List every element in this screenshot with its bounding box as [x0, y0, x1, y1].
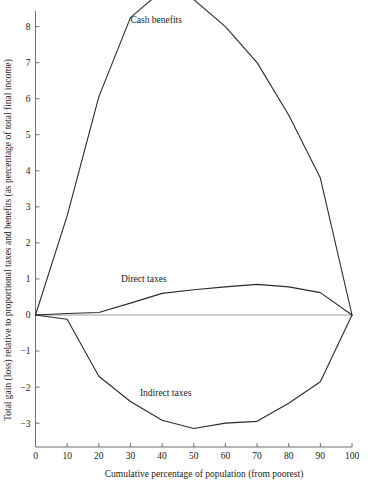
y-tick-label: 4 [26, 166, 31, 176]
y-tick-label: 7 [26, 58, 31, 68]
y-tick-label: −3 [20, 419, 30, 429]
y-tick-label: −2 [20, 383, 30, 393]
x-tick-label: 0 [33, 451, 38, 461]
y-tick-label: 3 [26, 202, 31, 212]
plot-background [0, 0, 373, 483]
x-axis-title-text: Cumulative percentage of population (fro… [105, 469, 304, 480]
chart-container: −3−2−101234567890102030405060708090100 C… [0, 0, 373, 483]
y-tick-label: −1 [20, 346, 30, 356]
x-tick-label: 30 [126, 451, 136, 461]
y-tick-label: 5 [26, 130, 31, 140]
x-tick-label: 70 [252, 451, 262, 461]
series-label-direct-taxes: Direct taxes [121, 274, 167, 284]
x-tick-label: 10 [62, 451, 72, 461]
series-label-cash-benefits: Cash benefits [130, 15, 182, 25]
y-axis-title-text: Total gain (loss) relative to proportion… [3, 59, 14, 421]
line-chart: −3−2−101234567890102030405060708090100 C… [0, 0, 373, 483]
y-tick-label: 2 [26, 238, 31, 248]
x-tick-label: 100 [345, 451, 360, 461]
x-axis-title: Cumulative percentage of population (fro… [105, 469, 304, 480]
series-label-indirect-taxes: Indirect taxes [140, 388, 192, 398]
x-tick-label: 90 [316, 451, 326, 461]
y-tick-label: 8 [26, 22, 31, 32]
x-tick-label: 80 [284, 451, 294, 461]
x-tick-label: 60 [221, 451, 231, 461]
y-tick-label: 1 [26, 274, 31, 284]
x-tick-label: 50 [189, 451, 199, 461]
y-axis-title: Total gain (loss) relative to proportion… [3, 59, 14, 421]
x-tick-label: 20 [94, 451, 104, 461]
y-tick-label: 6 [26, 94, 31, 104]
x-tick-label: 40 [157, 451, 167, 461]
y-tick-label: 0 [26, 310, 31, 320]
